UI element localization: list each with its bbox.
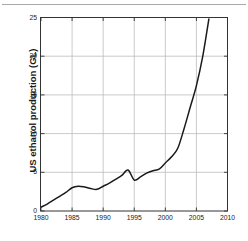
y-tick-label: 15 xyxy=(25,91,37,98)
x-tick-label: 2010 xyxy=(215,214,241,221)
chart-figure: US ethanol production (GL) 1980198519901… xyxy=(0,0,248,241)
y-tick-label: 20 xyxy=(25,52,37,59)
x-tick-label: 1980 xyxy=(28,214,54,221)
x-tick-label: 1995 xyxy=(121,214,147,221)
x-tick-label: 1985 xyxy=(59,214,85,221)
y-tick-label: 10 xyxy=(25,130,37,137)
data-series-group xyxy=(41,19,209,207)
y-tick-label: 0 xyxy=(25,207,37,214)
plot-area xyxy=(0,0,248,241)
data-line xyxy=(41,19,209,207)
y-tick-label: 5 xyxy=(25,168,37,175)
x-tick-label: 2005 xyxy=(183,214,209,221)
x-tick-label: 1990 xyxy=(90,214,116,221)
y-tick-label: 25 xyxy=(25,14,37,21)
x-tick-label: 2000 xyxy=(152,214,178,221)
gridlines xyxy=(41,18,228,212)
